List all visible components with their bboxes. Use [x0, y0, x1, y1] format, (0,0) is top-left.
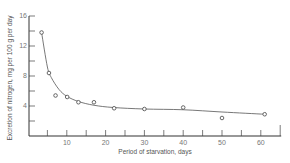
y-tick-label: 4 — [23, 102, 27, 109]
y-tick-label: 16 — [19, 12, 27, 19]
x-axis-title: Period of starvation, days — [118, 148, 192, 156]
data-point — [181, 106, 185, 110]
nitrogen-excretion-chart: 481216 102030405060 Period of starvation… — [0, 0, 290, 163]
x-axis-ticks: 102030405060 — [47, 125, 280, 146]
data-point — [143, 107, 147, 111]
data-point — [220, 116, 224, 120]
data-point — [112, 106, 116, 110]
data-points — [40, 31, 267, 120]
data-point — [263, 112, 267, 116]
x-tick-label: 30 — [141, 139, 149, 146]
data-point — [47, 71, 51, 75]
x-tick-label: 60 — [257, 139, 265, 146]
fitted-curve — [42, 33, 265, 115]
data-point — [65, 95, 69, 99]
y-axis-title: Excretion of nitrogen, mg per 100 g per … — [6, 15, 14, 141]
x-tick-label: 20 — [102, 139, 110, 146]
data-point — [54, 94, 58, 98]
y-tick-label: 8 — [23, 72, 27, 79]
x-tick-label: 50 — [218, 139, 226, 146]
data-point — [92, 100, 96, 104]
x-tick-label: 40 — [179, 139, 187, 146]
y-axis-ticks: 481216 — [19, 12, 35, 121]
y-tick-label: 12 — [19, 42, 27, 49]
data-point — [77, 100, 81, 104]
data-point — [40, 31, 44, 35]
axes — [29, 16, 281, 136]
x-tick-label: 10 — [63, 139, 71, 146]
